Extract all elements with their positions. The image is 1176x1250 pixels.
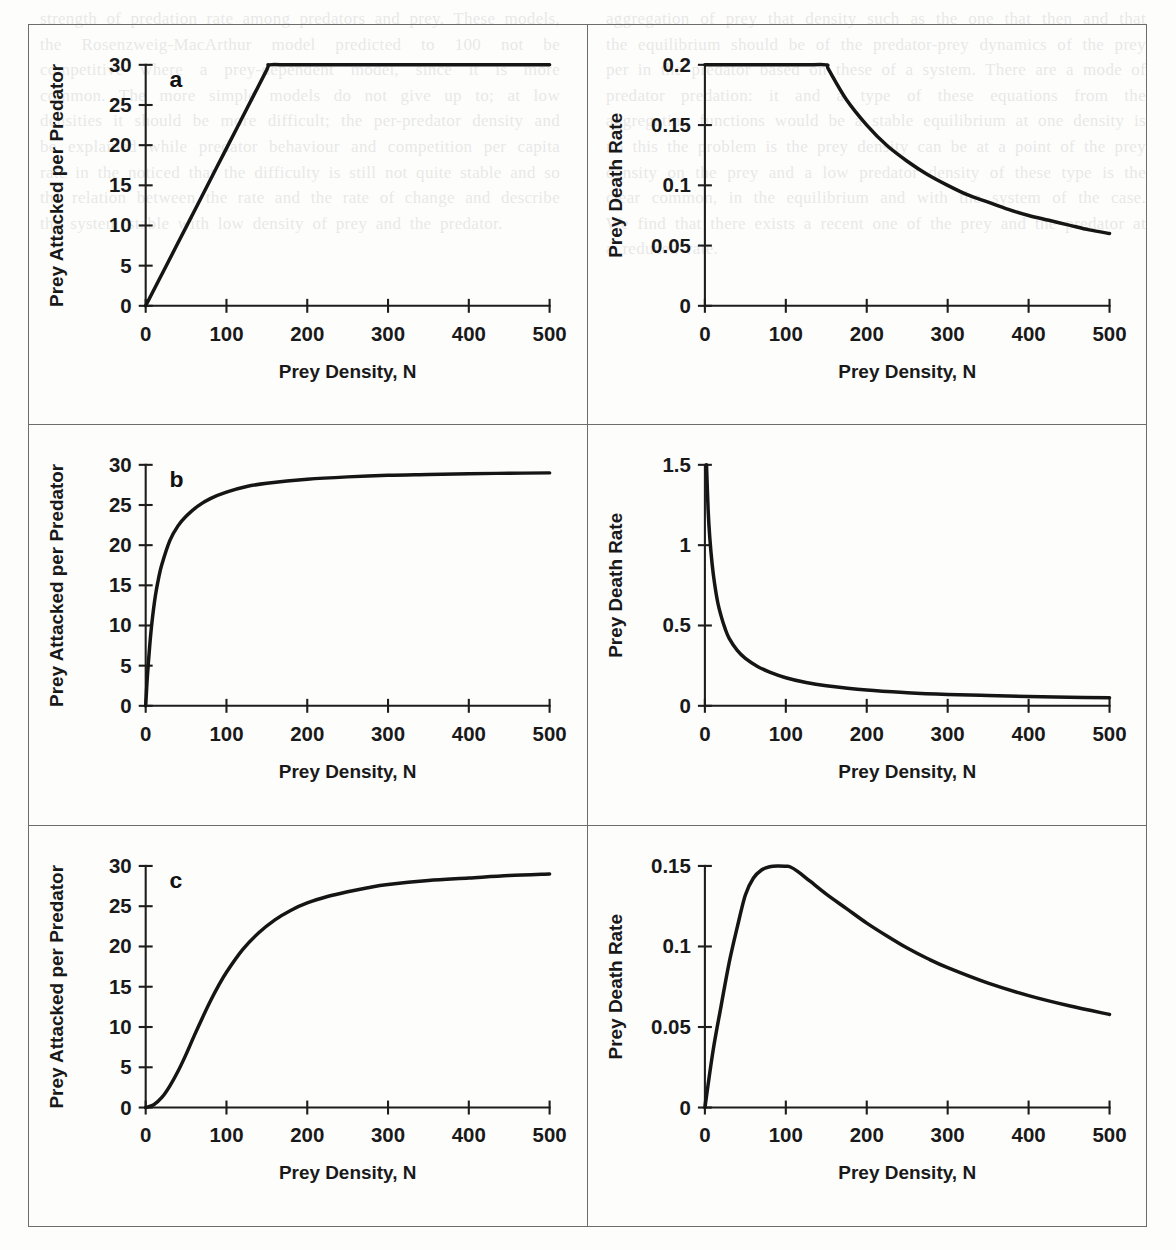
- svg-text:0.1: 0.1: [662, 173, 690, 196]
- svg-text:20: 20: [109, 934, 132, 957]
- panel-b-attack-cell: 0510152025300100200300400500Prey Density…: [29, 425, 588, 825]
- panel-a-death-cell: 00.050.10.150.20100200300400500Prey Dens…: [588, 25, 1147, 425]
- svg-text:Prey Death Rate: Prey Death Rate: [604, 113, 625, 258]
- svg-text:0: 0: [140, 323, 151, 345]
- svg-text:Prey Density, N: Prey Density, N: [838, 361, 976, 382]
- svg-text:Prey Density, N: Prey Density, N: [838, 1162, 976, 1183]
- svg-text:300: 300: [371, 323, 405, 345]
- panel-a-death-chart: 00.050.10.150.20100200300400500Prey Dens…: [588, 25, 1147, 424]
- svg-text:30: 30: [109, 54, 132, 76]
- svg-text:c: c: [170, 867, 183, 893]
- svg-text:500: 500: [533, 323, 567, 345]
- svg-text:0: 0: [120, 295, 131, 317]
- svg-text:0: 0: [140, 1123, 151, 1146]
- svg-text:200: 200: [849, 722, 883, 745]
- svg-text:Prey Death Rate: Prey Death Rate: [604, 513, 625, 658]
- panel-c-attack-cell: 0510152025300100200300400500Prey Density…: [29, 826, 588, 1226]
- data-curve: [704, 64, 1109, 233]
- svg-text:0: 0: [120, 695, 131, 717]
- svg-text:0: 0: [120, 1095, 131, 1118]
- panel-b-attack-chart: 0510152025300100200300400500Prey Density…: [29, 425, 587, 824]
- svg-text:200: 200: [290, 1123, 324, 1146]
- svg-text:0.15: 0.15: [651, 854, 691, 877]
- svg-text:0.5: 0.5: [662, 614, 690, 637]
- svg-text:400: 400: [452, 723, 486, 745]
- svg-text:25: 25: [109, 494, 132, 516]
- svg-text:25: 25: [109, 94, 132, 116]
- svg-text:500: 500: [1092, 1123, 1126, 1146]
- svg-text:100: 100: [209, 1123, 243, 1146]
- svg-text:500: 500: [1092, 322, 1126, 345]
- svg-text:0: 0: [140, 723, 151, 745]
- svg-text:15: 15: [109, 974, 132, 997]
- svg-text:300: 300: [930, 1123, 964, 1146]
- svg-text:20: 20: [109, 134, 132, 156]
- svg-text:400: 400: [1011, 1123, 1045, 1146]
- panel-a-attack-cell: 0510152025300100200300400500Prey Density…: [29, 25, 588, 425]
- svg-text:20: 20: [109, 534, 132, 556]
- svg-text:200: 200: [290, 723, 324, 745]
- svg-text:100: 100: [768, 1123, 802, 1146]
- svg-text:100: 100: [209, 723, 243, 745]
- svg-text:0.15: 0.15: [651, 113, 691, 136]
- svg-text:10: 10: [109, 214, 132, 236]
- svg-text:0: 0: [679, 294, 690, 317]
- svg-text:400: 400: [1011, 722, 1045, 745]
- svg-text:Prey Density, N: Prey Density, N: [279, 361, 417, 382]
- svg-text:0: 0: [699, 322, 710, 345]
- data-curve: [146, 64, 550, 305]
- svg-text:500: 500: [533, 723, 567, 745]
- svg-text:300: 300: [371, 1123, 405, 1146]
- svg-text:0.1: 0.1: [662, 934, 690, 957]
- svg-text:500: 500: [533, 1123, 567, 1146]
- svg-text:15: 15: [109, 174, 132, 196]
- svg-text:Prey Density, N: Prey Density, N: [838, 761, 976, 782]
- data-curve: [704, 866, 1109, 1108]
- svg-text:Prey Density, N: Prey Density, N: [279, 1162, 416, 1183]
- svg-text:100: 100: [768, 322, 802, 345]
- svg-text:300: 300: [930, 722, 964, 745]
- svg-text:200: 200: [290, 323, 324, 345]
- svg-text:0.2: 0.2: [662, 53, 690, 76]
- svg-text:Prey Attacked per Predator: Prey Attacked per Predator: [46, 63, 67, 307]
- svg-text:Prey Attacked per Predator: Prey Attacked per Predator: [46, 463, 67, 707]
- svg-text:100: 100: [209, 323, 243, 345]
- svg-text:200: 200: [849, 1123, 883, 1146]
- scanned-page-background: strength of predation rate among predato…: [0, 0, 1176, 1250]
- svg-text:300: 300: [930, 322, 964, 345]
- svg-text:30: 30: [109, 454, 132, 476]
- figure-frame: 0510152025300100200300400500Prey Density…: [28, 24, 1147, 1227]
- svg-text:0: 0: [679, 694, 690, 717]
- svg-text:500: 500: [1092, 722, 1126, 745]
- svg-text:10: 10: [109, 1015, 132, 1038]
- svg-text:100: 100: [768, 722, 802, 745]
- svg-text:5: 5: [120, 655, 131, 677]
- svg-text:a: a: [170, 66, 183, 92]
- svg-text:0: 0: [679, 1095, 690, 1118]
- svg-text:5: 5: [120, 1055, 131, 1078]
- svg-text:1.5: 1.5: [662, 453, 690, 476]
- svg-text:0.05: 0.05: [651, 1015, 691, 1038]
- svg-text:30: 30: [109, 854, 132, 877]
- svg-text:1: 1: [679, 533, 690, 556]
- svg-text:400: 400: [452, 1123, 486, 1146]
- panel-b-death-cell: 00.511.50100200300400500Prey Density, NP…: [588, 425, 1147, 825]
- svg-text:10: 10: [109, 615, 132, 637]
- svg-text:15: 15: [109, 575, 132, 597]
- svg-text:b: b: [170, 466, 184, 492]
- svg-text:400: 400: [1011, 322, 1045, 345]
- panel-c-attack-chart: 0510152025300100200300400500Prey Density…: [29, 826, 587, 1226]
- svg-text:0.05: 0.05: [651, 234, 691, 257]
- data-curve: [706, 465, 1109, 698]
- data-curve: [146, 473, 550, 706]
- svg-text:Prey Density, N: Prey Density, N: [279, 761, 417, 782]
- panel-c-death-chart: 00.050.10.150100200300400500Prey Density…: [588, 826, 1147, 1226]
- svg-text:200: 200: [849, 322, 883, 345]
- data-curve: [146, 874, 550, 1108]
- svg-text:25: 25: [109, 894, 132, 917]
- panel-a-attack-chart: 0510152025300100200300400500Prey Density…: [29, 25, 587, 424]
- svg-text:0: 0: [699, 1123, 710, 1146]
- svg-text:Prey Attacked per Predator: Prey Attacked per Predator: [46, 864, 67, 1108]
- svg-text:Prey Death Rate: Prey Death Rate: [604, 914, 625, 1059]
- svg-text:300: 300: [371, 723, 405, 745]
